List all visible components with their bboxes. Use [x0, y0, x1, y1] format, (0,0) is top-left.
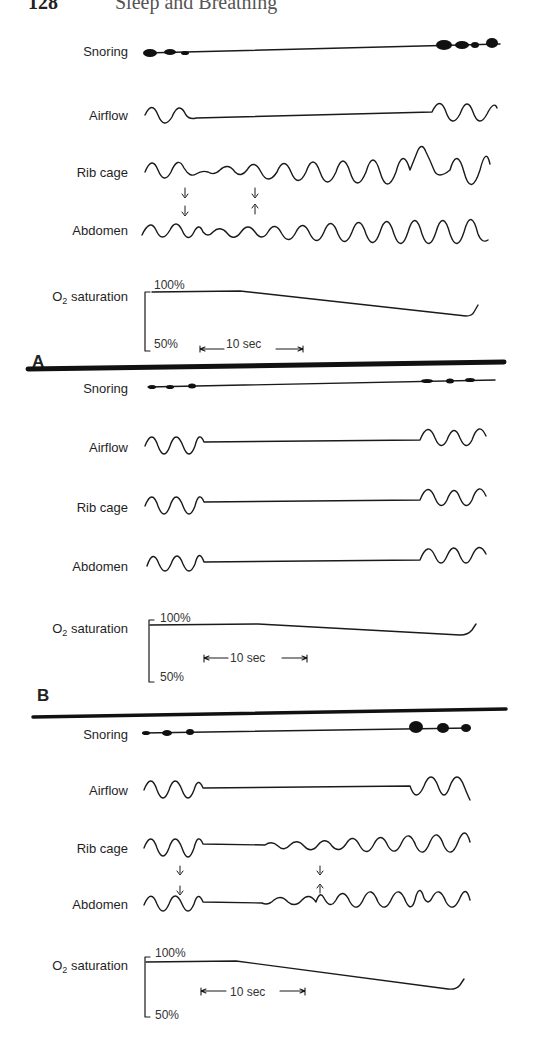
trace-o2-a: [152, 291, 478, 316]
snore-bursts-c: [142, 721, 471, 736]
o2-axis-c: [145, 957, 150, 1017]
trace-abdomen-c: [144, 890, 470, 911]
trace-airflow-a: [145, 104, 497, 124]
arrows-c: [177, 866, 323, 895]
trace-airflow-b: [145, 429, 486, 454]
divider-bc: [33, 709, 506, 717]
snore-bursts-a: [143, 38, 498, 57]
o2-axis-a: [145, 292, 150, 351]
time-bar-b: [204, 655, 307, 662]
trace-ribcage-a: [145, 146, 490, 184]
trace-abdomen-a: [142, 219, 488, 243]
o2-axis-b: [149, 620, 154, 682]
arrows-a: [182, 188, 258, 216]
trace-ribcage-b: [145, 489, 486, 514]
trace-o2-c: [146, 961, 464, 989]
trace-abdomen-b: [147, 547, 486, 571]
trace-ribcage-c: [144, 833, 470, 857]
polysomnography-traces: [0, 0, 541, 1053]
trace-snoring-b: [148, 380, 495, 387]
time-bar-c: [201, 988, 305, 995]
trace-o2-b: [150, 624, 476, 635]
trace-airflow-c: [144, 777, 470, 800]
divider-ab: [28, 362, 504, 369]
time-bar-a: [200, 346, 303, 352]
